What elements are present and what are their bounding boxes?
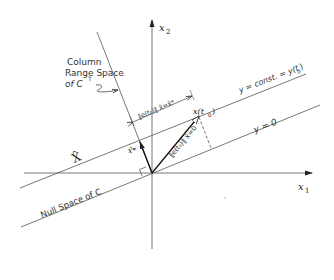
error-norm-xhat0-group: ‖e(t₀)‖ x̂=0 (167, 124, 198, 159)
right-angle-marker (140, 167, 147, 176)
column-range-sup: T (87, 75, 92, 82)
x2-axis-sub: 2 (166, 28, 170, 36)
y-const-label-group: y = const. = y(t 0 ) (237, 62, 305, 97)
speck (224, 197, 226, 199)
xhat-set-label: X̂ (69, 148, 83, 165)
x-t0-close: ) (212, 107, 215, 116)
column-range-pointer (96, 85, 118, 92)
x2-axis-label: x (159, 22, 165, 33)
diagram-svg: Column Range Space of C T x 2 x 1 y = co… (0, 0, 334, 280)
error-norm-xhatstar-group: ‖e(t₀)‖ x̂=x̂* (137, 98, 177, 121)
x-t0-label: x(t (193, 107, 205, 116)
column-range-label-3: of C (65, 79, 84, 89)
xhat-set-label-group: X̂ (69, 148, 83, 165)
null-space-label: Null Space of C (39, 186, 103, 219)
y-zero-label-group: y = 0 (251, 117, 278, 136)
column-range-label-1: Column (67, 57, 101, 67)
y-zero-label: y = 0 (251, 117, 278, 136)
error-norm-xhatstar: ‖e(t₀)‖ x̂=x̂* (137, 98, 177, 121)
diagram-canvas: Column Range Space of C T x 2 x 1 y = co… (0, 0, 334, 280)
perpendicular-dashed (199, 117, 211, 148)
x1-axis-sub: 1 (305, 187, 309, 195)
x1-axis-label: x (298, 181, 304, 192)
error-norm-xhat0: ‖e(t₀)‖ x̂=0 (167, 124, 198, 159)
xhat-star-label: x̂* (128, 146, 136, 155)
null-space-label-group: Null Space of C (39, 186, 103, 219)
y-const-label: y = const. = y(t (237, 63, 301, 95)
column-range-label-2: Range Space (65, 68, 124, 78)
